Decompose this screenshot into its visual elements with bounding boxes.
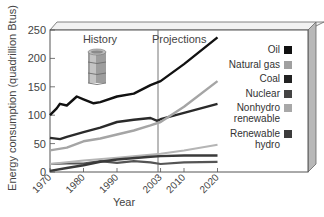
- legend-item: Nuclear: [218, 88, 292, 99]
- legend-swatch: [284, 104, 292, 112]
- box-top-face: [50, 22, 324, 30]
- x-tick-label: 2020: [197, 171, 221, 195]
- x-tick-label: 2010: [164, 171, 188, 195]
- projections-annotation: Projections: [152, 33, 207, 45]
- x-axis-label: Year: [113, 196, 136, 208]
- box-side-face: [308, 22, 316, 172]
- legend-swatch: [284, 75, 292, 83]
- legend-label: Oil: [268, 44, 280, 55]
- legend: OilNatural gasCoalNuclearNonhydro renewa…: [218, 44, 292, 153]
- legend-label: Nuclear: [246, 88, 280, 99]
- y-tick-label: 50: [34, 138, 46, 150]
- legend-label: Renewable hydro: [230, 128, 280, 150]
- legend-label: Natural gas: [229, 59, 280, 70]
- y-axis-label: Energy consumption (quadrillion Btus): [6, 5, 18, 191]
- oil-barrel-icon: [88, 49, 106, 85]
- legend-swatch: [284, 90, 292, 98]
- y-tick-label: 150: [28, 81, 46, 93]
- legend-item: Renewable hydro: [218, 128, 292, 150]
- x-tick-label: 1990: [97, 171, 121, 195]
- legend-label: Nonhydro renewable: [234, 102, 280, 124]
- x-tick-label: 1980: [63, 171, 87, 195]
- y-tick-label: 100: [28, 109, 46, 121]
- history-annotation: History: [83, 33, 118, 45]
- legend-item: Natural gas: [218, 59, 292, 70]
- legend-swatch: [284, 130, 292, 138]
- y-tick-label: 250: [28, 24, 46, 36]
- legend-item: Oil: [218, 44, 292, 55]
- legend-item: Nonhydro renewable: [218, 102, 292, 124]
- legend-swatch: [284, 46, 292, 54]
- legend-swatch: [284, 61, 292, 69]
- y-tick-label: 200: [28, 52, 46, 64]
- x-tick-label: 2003: [140, 171, 164, 195]
- x-tick-label: 1970: [30, 171, 54, 195]
- legend-label: Coal: [259, 73, 280, 84]
- legend-item: Coal: [218, 73, 292, 84]
